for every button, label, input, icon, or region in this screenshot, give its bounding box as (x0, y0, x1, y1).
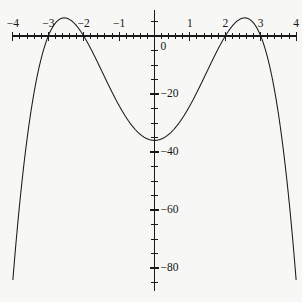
axes-group (13, 10, 296, 291)
y-tick-label: −80 (161, 262, 179, 274)
y-tick-label: −40 (161, 146, 179, 158)
x-tick-label: 4 (293, 18, 299, 30)
x-tick-label: 2 (222, 18, 228, 30)
x-tick-label: 1 (187, 18, 193, 30)
x-tick-label: −3 (42, 18, 54, 30)
y-tick-label: −20 (161, 88, 179, 100)
x-tick-label: 3 (258, 18, 264, 30)
y-tick-label: −60 (161, 204, 179, 216)
chart-figure: −4−3−2−11234 0−20−40−60−80 (0, 0, 302, 302)
x-tick-label: −1 (113, 18, 125, 30)
x-tick-label: −4 (7, 18, 19, 30)
y-tick-label: 0 (161, 41, 167, 53)
chart-canvas (0, 0, 302, 302)
x-tick-label: −2 (78, 18, 90, 30)
